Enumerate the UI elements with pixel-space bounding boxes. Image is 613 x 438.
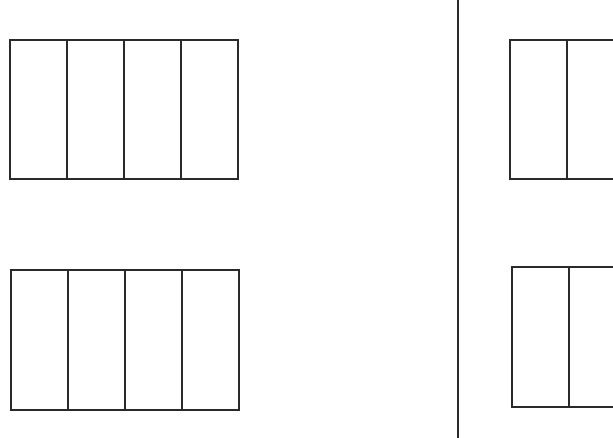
panel-top-left [9,39,239,180]
vertical-divider-line [457,0,459,438]
panel-section [68,41,125,178]
panel-top-right [509,39,613,180]
panel-section [182,41,237,178]
panel-section [568,41,613,178]
panel-bottom-left [10,269,240,411]
panel-section [11,41,68,178]
panel-section [570,268,613,406]
panel-section [12,271,69,409]
panel-section [511,41,568,178]
panel-bottom-right [511,266,613,408]
panel-section [126,271,183,409]
panel-section [513,268,570,406]
panel-section [183,271,238,409]
panel-section [69,271,126,409]
panel-section [125,41,182,178]
